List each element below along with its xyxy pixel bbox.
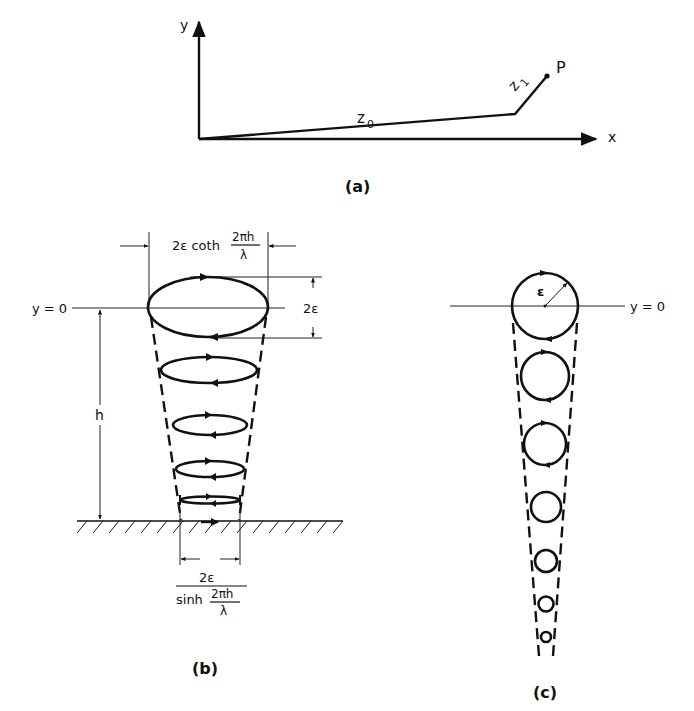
x-axis-label: x — [608, 129, 616, 145]
circle-3 — [524, 423, 566, 465]
svg-text:sinh: sinh — [176, 592, 203, 607]
ellipse-1 — [148, 277, 268, 337]
svg-text:2ε coth: 2ε coth — [172, 238, 220, 253]
radius-label: ε — [537, 284, 544, 299]
bottom-width-label: 2ε sinh 2πh λ — [176, 570, 247, 618]
envelope-right — [239, 317, 266, 520]
svg-text:λ: λ — [240, 248, 247, 262]
envelope-left — [151, 317, 181, 520]
panel-b: y = 0 h 2ε coth 2πh λ 2ε — [32, 230, 343, 678]
caption-b: (b) — [192, 659, 218, 678]
top-width-label: 2ε coth 2πh λ — [172, 230, 260, 262]
circle-5 — [535, 550, 557, 572]
y0-label-c: y = 0 — [630, 299, 665, 314]
y-axis-label: y — [180, 17, 188, 33]
svg-text:λ: λ — [220, 604, 227, 618]
z0-label: z 0 — [357, 109, 374, 131]
figure-canvas: y x P z 0 z 1 (a) y = 0 h 2ε coth 2πh — [0, 0, 694, 711]
z1-label: z 1 — [504, 70, 532, 97]
caption-c: (c) — [533, 683, 557, 702]
svg-text:0: 0 — [367, 118, 374, 131]
y0-label-b: y = 0 — [32, 301, 67, 316]
point-p-label: P — [556, 58, 566, 77]
circle-4 — [531, 492, 561, 522]
envelope-left-c — [513, 323, 539, 656]
panel-a: y x P z 0 z 1 (a) — [180, 17, 616, 196]
circle-6 — [539, 597, 554, 612]
svg-text:2πh: 2πh — [211, 587, 233, 601]
vertical-dimension-label: 2ε — [303, 301, 318, 316]
circle-2 — [521, 352, 569, 400]
height-label: h — [95, 407, 104, 423]
envelope-right-c — [553, 323, 577, 656]
radius-line — [545, 283, 567, 306]
caption-a: (a) — [345, 177, 370, 196]
circle-7 — [541, 632, 551, 642]
ellipse-2 — [161, 357, 257, 383]
svg-text:2ε: 2ε — [199, 570, 214, 585]
svg-text:z: z — [357, 109, 365, 127]
svg-text:2πh: 2πh — [232, 230, 254, 244]
vortex-circles — [512, 270, 578, 642]
point-p — [544, 73, 549, 78]
ellipse-3 — [173, 415, 247, 435]
ellipse-4 — [176, 461, 244, 477]
panel-c: y = 0 ε (c) — [450, 270, 665, 702]
